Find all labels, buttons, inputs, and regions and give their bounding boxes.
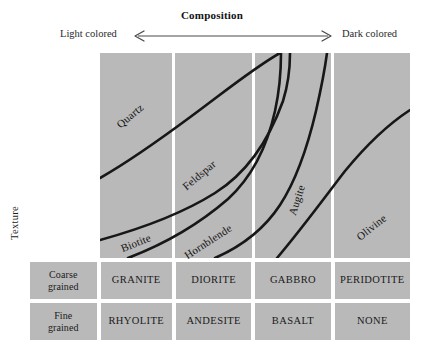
table-cell-basalt: BASALT [255,303,330,340]
table-cell-andesite: ANDESITE [176,303,251,340]
axis-label-texture: Texture [9,184,25,262]
table-cell-granite: GRANITE [101,262,172,299]
axis-label-light: Light colored [60,28,117,39]
rock-type-table: Coarse grained GRANITE DIORITE GABBRO PE… [30,262,410,340]
texture-fine-line2: grained [48,322,79,333]
mineral-composition-chart: Quartz Feldspar Biotite Hornblende Augit… [100,53,410,258]
table-cell-gabbro: GABBRO [255,262,330,299]
texture-fine-line1: Fine [54,310,72,321]
table-cell-rhyolite: RHYOLITE [101,303,172,340]
texture-coarse-line2: grained [48,281,79,292]
table-cell-peridotite: PERIDOTITE [335,262,410,299]
page-title: Composition [0,9,424,21]
rock-composition-figure: Composition Light colored Dark colored [0,0,424,357]
chart-column-granite [100,53,172,258]
texture-header-fine: Fine grained [30,303,97,340]
texture-header-coarse: Coarse grained [30,262,97,299]
table-cell-diorite: DIORITE [176,262,251,299]
table-row: Coarse grained GRANITE DIORITE GABBRO PE… [30,262,410,299]
table-cell-none: NONE [335,303,410,340]
chart-column-gabbro [255,53,331,258]
chart-column-diorite [175,53,251,258]
composition-axis: Light colored Dark colored [0,28,424,46]
texture-coarse-line1: Coarse [49,269,77,280]
table-row: Fine grained RHYOLITE ANDESITE BASALT NO… [30,303,410,340]
axis-label-dark: Dark colored [342,28,397,39]
double-headed-arrow-icon [130,28,336,44]
